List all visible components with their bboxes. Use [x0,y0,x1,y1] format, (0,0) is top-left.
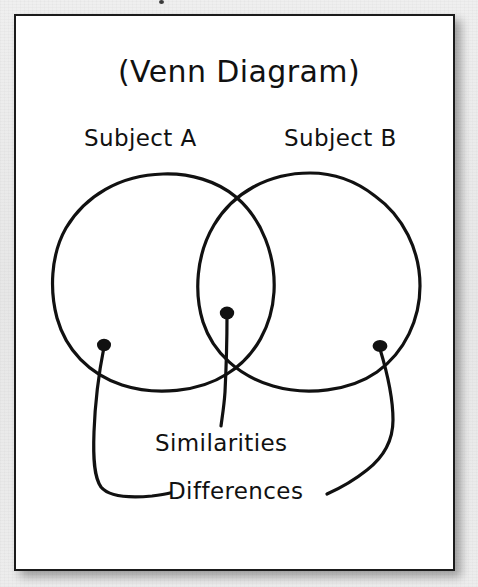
leader-line-similarities [221,316,227,426]
diagram-title: (Venn Diagram) [0,54,478,89]
venn-diagram-page: (Venn Diagram) Subject A Subject B Simil… [0,0,478,587]
label-subject-a: Subject A [84,125,197,151]
dot-marker-left [97,339,111,351]
dot-marker-center [220,307,234,320]
leader-line-differences-left [94,347,170,497]
label-similarities: Similarities [155,430,287,456]
circle-subject-a [53,174,275,391]
leader-line-differences-right [327,349,393,494]
label-subject-b: Subject B [284,125,397,151]
label-differences: Differences [168,478,303,504]
dot-marker-right [373,340,388,352]
circle-subject-b [198,173,420,391]
